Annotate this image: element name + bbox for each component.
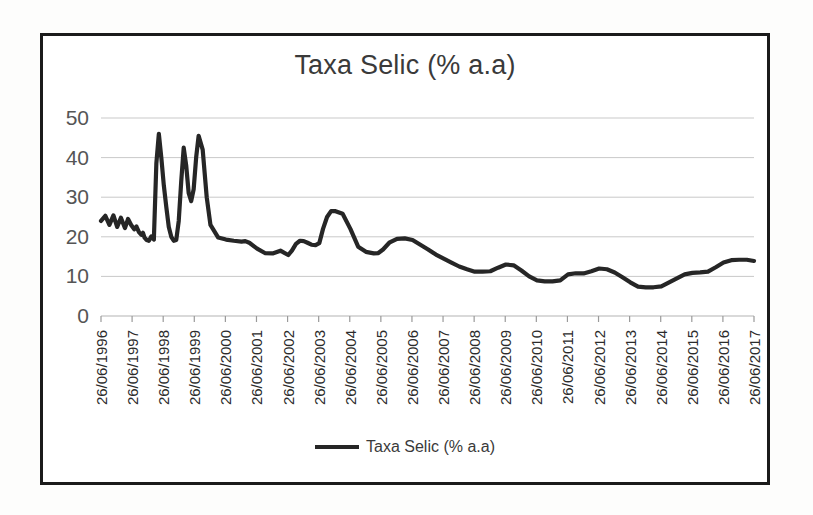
xtick-label: 26/06/1996 — [93, 330, 110, 405]
ytick-label: 0 — [77, 304, 89, 327]
ytick-label: 50 — [66, 106, 89, 129]
xtick-label: 26/06/2016 — [715, 330, 732, 405]
xtick-label: 26/06/2011 — [559, 330, 576, 404]
legend-label: Taxa Selic (% a.a) — [366, 438, 495, 456]
xtick-label: 26/06/2009 — [497, 330, 514, 405]
xtick-label: 26/06/2015 — [684, 330, 701, 405]
ytick-label: 10 — [66, 264, 89, 287]
plot-area: 0102030405026/06/199626/06/199726/06/199… — [43, 36, 767, 482]
xtick-label: 26/06/2012 — [591, 330, 608, 405]
xtick-label: 26/06/1997 — [124, 330, 141, 405]
xtick-label: 26/06/2010 — [528, 330, 545, 405]
xtick-label: 26/06/1999 — [186, 330, 203, 405]
xtick-label: 26/06/2013 — [622, 330, 639, 405]
ytick-label: 30 — [66, 185, 89, 208]
xtick-label: 26/06/2008 — [466, 330, 483, 405]
xtick-label: 26/06/2017 — [746, 330, 763, 405]
xtick-label: 26/06/2001 — [248, 330, 265, 405]
series-line-0 — [101, 134, 754, 287]
xtick-label: 26/06/2006 — [404, 330, 421, 405]
xtick-label: 26/06/1998 — [155, 330, 172, 405]
xtick-label: 26/06/2003 — [311, 330, 328, 405]
xtick-label: 26/06/2014 — [653, 330, 670, 405]
xtick-label: 26/06/2005 — [373, 330, 390, 405]
xtick-label: 26/06/2002 — [280, 330, 297, 405]
legend-line-swatch — [315, 445, 359, 449]
chart-frame: Taxa Selic (% a.a) 0102030405026/06/1996… — [40, 33, 770, 485]
chart-page: Taxa Selic (% a.a) 0102030405026/06/1996… — [0, 0, 813, 515]
xtick-label: 26/06/2000 — [217, 330, 234, 405]
xtick-label: 26/06/2007 — [435, 330, 452, 405]
ytick-label: 20 — [66, 225, 89, 248]
ytick-label: 40 — [66, 146, 89, 169]
xtick-label: 26/06/2004 — [342, 330, 359, 405]
chart-legend: Taxa Selic (% a.a) — [43, 438, 767, 456]
